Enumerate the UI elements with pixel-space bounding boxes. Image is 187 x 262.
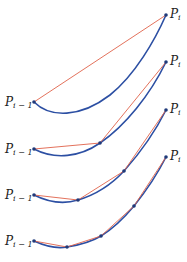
start-point-label: Pi − 1	[4, 142, 33, 157]
sample-point	[164, 108, 168, 112]
sample-point	[122, 169, 126, 173]
sample-point	[132, 204, 136, 208]
start-point-label: Pi − 1	[4, 95, 33, 110]
curve	[34, 15, 166, 113]
sample-point	[164, 13, 168, 17]
sample-point	[164, 155, 168, 159]
chord-polyline	[34, 15, 166, 102]
curve-approximation-diagram: Pi − 1PiPi − 1PiPi − 1PiPi − 1Pi	[0, 0, 187, 262]
sample-point	[164, 60, 168, 64]
sample-point	[32, 147, 36, 151]
chord-polyline	[34, 62, 166, 149]
panel-1: Pi − 1Pi	[4, 7, 181, 113]
sample-point	[76, 198, 80, 202]
sample-point	[65, 245, 69, 249]
start-point-label: Pi − 1	[4, 234, 33, 249]
end-point-label: Pi	[169, 7, 181, 22]
end-point-label: Pi	[169, 102, 181, 117]
start-point-label: Pi − 1	[4, 188, 33, 203]
sample-point	[98, 141, 102, 145]
sample-point	[99, 234, 103, 238]
sample-point	[32, 100, 36, 104]
end-point-label: Pi	[169, 54, 181, 69]
sample-point	[32, 239, 36, 243]
sample-point	[32, 193, 36, 197]
end-point-label: Pi	[169, 149, 181, 164]
